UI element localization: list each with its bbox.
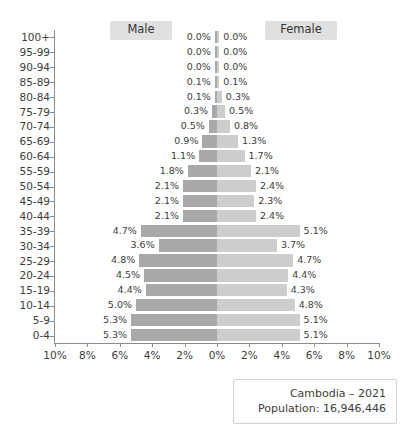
- value-label-female: 4.4%: [292, 268, 316, 283]
- pyramid-row: 2.1%2.3%: [55, 194, 379, 209]
- pyramid-row: 4.5%4.4%: [55, 268, 379, 283]
- value-label-male: 5.0%: [108, 298, 132, 313]
- value-label-female: 0.5%: [229, 104, 253, 119]
- y-tick-mark: [50, 201, 54, 202]
- value-label-male: 2.1%: [155, 194, 179, 209]
- value-label-female: 1.7%: [249, 149, 273, 164]
- value-label-female: 4.8%: [299, 298, 323, 313]
- bar-male: [199, 150, 217, 162]
- y-tick-label: 95-99: [0, 45, 50, 60]
- y-tick-mark: [50, 97, 54, 98]
- x-tick-mark: [185, 343, 186, 347]
- y-tick-mark: [50, 261, 54, 262]
- bar-male: [183, 195, 217, 207]
- x-tick-mark: [55, 343, 56, 347]
- plot-area: 0.0%0.0%0.0%0.0%0.0%0.0%0.1%0.1%0.1%0.3%…: [55, 30, 379, 343]
- y-tick-mark: [50, 172, 54, 173]
- value-label-male: 3.6%: [131, 238, 155, 253]
- bar-male: [209, 120, 217, 132]
- value-label-male: 0.3%: [184, 104, 208, 119]
- y-tick-mark: [50, 336, 54, 337]
- value-label-male: 4.7%: [113, 224, 137, 239]
- x-tick-mark: [347, 343, 348, 347]
- bar-female: [217, 135, 238, 147]
- bar-female: [217, 31, 219, 43]
- pyramid-row: 0.1%0.3%: [55, 90, 379, 105]
- value-label-male: 0.0%: [187, 45, 211, 60]
- bar-male: [131, 314, 217, 326]
- value-label-male: 4.4%: [118, 283, 142, 298]
- bar-male: [183, 180, 217, 192]
- y-tick-label: 80-84: [0, 90, 50, 105]
- x-tick-mark: [379, 343, 380, 347]
- y-tick-label: 60-64: [0, 149, 50, 164]
- x-tick-mark: [87, 343, 88, 347]
- value-label-female: 0.0%: [223, 60, 247, 75]
- value-label-female: 4.7%: [297, 253, 321, 268]
- pyramid-row: 4.7%5.1%: [55, 224, 379, 239]
- value-label-male: 0.5%: [181, 119, 205, 134]
- value-label-female: 2.4%: [260, 209, 284, 224]
- y-tick-label: 20-24: [0, 268, 50, 283]
- value-label-female: 0.8%: [234, 119, 258, 134]
- y-tick-mark: [50, 291, 54, 292]
- bar-female: [217, 299, 295, 311]
- value-label-female: 5.1%: [304, 224, 328, 239]
- pyramid-row: 0.9%1.3%: [55, 134, 379, 149]
- value-label-male: 2.1%: [155, 179, 179, 194]
- value-label-female: 0.0%: [223, 30, 247, 45]
- pyramid-row: 4.4%4.3%: [55, 283, 379, 298]
- population-pyramid-chart: Male Female 100+95-9990-9485-8980-8475-7…: [0, 0, 407, 426]
- bar-female: [217, 46, 219, 58]
- y-tick-label: 35-39: [0, 224, 50, 239]
- value-label-male: 1.8%: [160, 164, 184, 179]
- bar-female: [217, 284, 287, 296]
- y-tick-label: 65-69: [0, 134, 50, 149]
- value-label-female: 1.3%: [242, 134, 266, 149]
- y-tick-label: 50-54: [0, 179, 50, 194]
- value-label-female: 2.3%: [258, 194, 282, 209]
- pyramid-row: 5.3%5.1%: [55, 313, 379, 328]
- y-tick-mark: [50, 231, 54, 232]
- bar-male: [131, 329, 217, 341]
- bar-male: [183, 210, 217, 222]
- x-tick-label: 10%: [359, 349, 399, 361]
- x-tick-mark: [120, 343, 121, 347]
- bar-female: [217, 210, 256, 222]
- y-tick-mark: [50, 127, 54, 128]
- y-tick-mark: [50, 52, 54, 53]
- pyramid-row: 2.1%2.4%: [55, 209, 379, 224]
- y-tick-mark: [50, 246, 54, 247]
- bar-female: [217, 314, 300, 326]
- pyramid-row: 0.1%0.1%: [55, 75, 379, 90]
- value-label-male: 0.1%: [187, 75, 211, 90]
- caption-population: Population: 16,946,446: [234, 401, 386, 416]
- bar-female: [217, 180, 256, 192]
- y-tick-label: 70-74: [0, 119, 50, 134]
- bar-female: [217, 165, 251, 177]
- value-label-female: 5.1%: [304, 328, 328, 343]
- bar-male: [146, 284, 217, 296]
- value-label-female: 2.4%: [260, 179, 284, 194]
- y-tick-label: 30-34: [0, 239, 50, 254]
- y-tick-mark: [50, 37, 54, 38]
- caption-box: Cambodia – 2021 Population: 16,946,446: [233, 379, 397, 424]
- y-tick-label: 55-59: [0, 164, 50, 179]
- value-label-male: 0.0%: [187, 30, 211, 45]
- x-axis-line: [54, 343, 380, 344]
- bar-male: [144, 269, 217, 281]
- bar-male: [136, 299, 217, 311]
- bar-female: [217, 329, 300, 341]
- y-tick-label: 100+: [0, 30, 50, 45]
- y-tick-mark: [50, 321, 54, 322]
- y-tick-mark: [50, 276, 54, 277]
- y-tick-label: 10-14: [0, 298, 50, 313]
- bar-male: [202, 135, 217, 147]
- value-label-female: 0.3%: [226, 90, 250, 105]
- value-label-female: 0.1%: [223, 75, 247, 90]
- y-tick-label: 85-89: [0, 75, 50, 90]
- bar-female: [217, 150, 245, 162]
- y-tick-label: 45-49: [0, 194, 50, 209]
- bar-male: [141, 225, 217, 237]
- pyramid-row: 0.0%0.0%: [55, 45, 379, 60]
